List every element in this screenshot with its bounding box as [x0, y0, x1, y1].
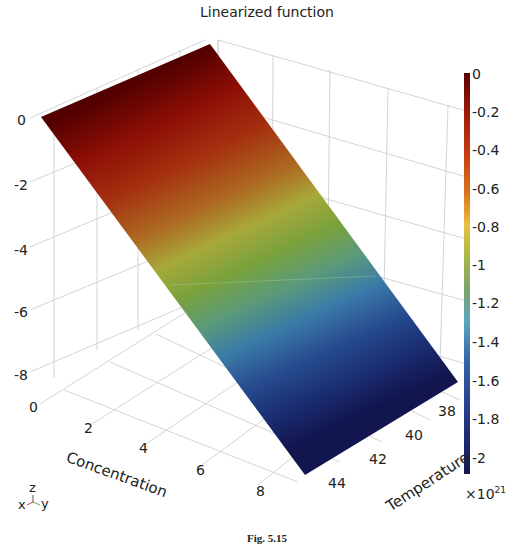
colorbar-tick: -1.8 — [472, 412, 499, 426]
triad-x-label: x — [18, 497, 26, 512]
y-tick: 38 — [438, 404, 456, 418]
x-tick: 8 — [256, 484, 265, 498]
z-tick: -2 — [14, 178, 28, 192]
figure-caption: Fig. 5.15 — [0, 532, 524, 544]
colorbar-multiplier: ×1021 — [465, 485, 506, 502]
colorbar-tick: -0.6 — [472, 182, 499, 196]
orientation-triad-icon — [27, 495, 40, 505]
colorbar-tick: -1.4 — [472, 335, 499, 349]
y-tick: 42 — [369, 452, 387, 466]
colorbar-tick: -1 — [472, 258, 486, 272]
x-tick: 0 — [29, 400, 38, 414]
z-tick: 0 — [17, 113, 26, 127]
y-tick: 40 — [405, 428, 423, 442]
surface-plane — [41, 44, 458, 475]
colorbar-tick: -1.2 — [472, 296, 499, 310]
colorbar-tick: -1.6 — [472, 374, 499, 388]
colorbar-tick: -0.8 — [472, 220, 499, 234]
colorbar-tick: -0.4 — [472, 143, 499, 157]
x-tick: 6 — [196, 463, 205, 477]
triad-z-label: z — [29, 480, 36, 495]
z-tick: -6 — [14, 305, 28, 319]
z-tick: -4 — [14, 243, 28, 257]
z-tick: -8 — [14, 368, 28, 382]
colorbar-tick: -2 — [472, 451, 486, 465]
colorbar-tick: 0 — [472, 67, 481, 81]
colorbar-tick: -0.2 — [472, 105, 499, 119]
colorbar — [464, 73, 470, 474]
triad-y-label: y — [41, 496, 49, 511]
x-tick: 2 — [84, 421, 93, 435]
x-tick: 4 — [139, 441, 148, 455]
y-tick: 44 — [328, 476, 346, 490]
